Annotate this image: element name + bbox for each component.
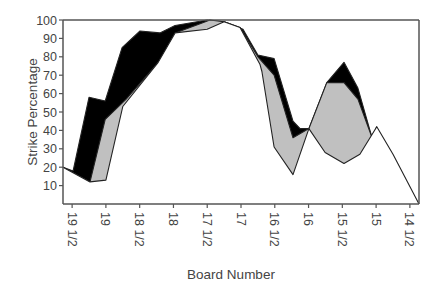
x-tick-label: 19 [98,212,112,226]
y-tick-label: 40 [43,124,57,138]
y-tick-label: 60 [43,87,57,101]
strike-percentage-chart: 102030405060708090100 19 1/21918 1/21817… [0,0,441,292]
x-axis-title: Board Number [187,267,275,282]
y-tick-label: 10 [43,179,57,193]
x-tick-label: 19 1/2 [65,212,79,247]
y-tick-label: 30 [43,142,57,156]
y-tick-label: 20 [43,161,57,175]
x-tick-label: 18 [166,212,180,226]
y-tick-label: 90 [43,32,57,46]
y-tick-label: 100 [36,14,57,28]
x-tick-label: 17 [234,212,248,226]
x-tick-label: 15 1/2 [335,212,349,247]
y-tick-label: 70 [43,69,57,83]
plot-area [63,20,419,204]
x-tick-label: 17 1/2 [200,212,214,247]
y-axis-ticks: 102030405060708090100 [36,14,63,194]
x-axis-ticks: 19 1/21918 1/21817 1/21716 1/21615 1/215… [65,204,417,247]
y-tick-label: 80 [43,50,57,64]
x-tick-label: 16 [301,212,315,226]
y-tick-label: 50 [43,106,57,120]
x-tick-label: 18 1/2 [132,212,146,247]
x-tick-label: 14 1/2 [402,212,416,247]
y-axis-title: Strike Percentage [25,58,40,165]
x-tick-label: 15 [369,212,383,226]
x-tick-label: 16 1/2 [267,212,281,247]
